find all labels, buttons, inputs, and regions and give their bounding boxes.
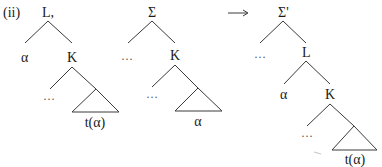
tree-2-ellipsis: … (146, 87, 158, 101)
tree-1-edge-k-right (72, 67, 96, 89)
tree-3-edge-l-right (306, 61, 330, 84)
tree-3-trace-label: t(α) (345, 152, 366, 167)
tree-2-triangle (175, 88, 222, 111)
tree-2-edge-root-left (128, 21, 152, 43)
tree-2-edge-root-right (152, 21, 175, 43)
tree-3-alpha-label: α (280, 87, 288, 102)
tree-3-ellipsis: … (301, 126, 313, 140)
tree-1-alpha-label: α (21, 50, 29, 65)
tree-3-l-label: L (302, 45, 311, 60)
tree-3-edge-root-left (260, 21, 283, 43)
transformation-arrow (228, 10, 248, 16)
tree-3-triangle (332, 126, 377, 150)
tree-3-edge-k-right (330, 104, 354, 126)
syntax-tree-diagram: (ii) L, α K … t(α) Σ … K … α Σ' … L (0, 0, 382, 167)
tree-2-ellipsis-top: … (121, 49, 133, 63)
tree-1-k-label: K (67, 50, 77, 65)
tree-2: Σ … K … α (121, 5, 222, 129)
tree-1-edge-root-right (48, 21, 72, 43)
tree-3-k-label: K (325, 87, 335, 102)
tree-1-triangle (72, 89, 119, 112)
tree-3-edge-k-left (307, 104, 330, 126)
tree-3-root-label: Σ' (278, 5, 289, 20)
tree-3-ellipsis-top: … (254, 47, 266, 61)
tree-1-trace-label: t(α) (85, 115, 106, 131)
example-number-label: (ii) (3, 5, 20, 21)
tree-2-alpha-label: α (194, 114, 202, 129)
tree-1-edge-root-left (25, 21, 48, 43)
tree-1-root-label: L, (42, 5, 54, 20)
tree-2-edge-k-right (175, 65, 198, 88)
tree-2-k-label: K (170, 48, 180, 63)
tree-1-ellipsis: … (43, 89, 55, 103)
stray-mark (314, 152, 321, 154)
tree-2-edge-k-left (152, 65, 175, 87)
tree-2-root-label: Σ (148, 5, 156, 20)
tree-3: Σ' … L α K … t(α) (254, 5, 377, 167)
tree-3-edge-root-right (283, 21, 306, 43)
tree-3-edge-l-left (284, 61, 306, 84)
tree-1: L, α K … t(α) (21, 5, 119, 131)
tree-1-edge-k-left (50, 67, 72, 89)
